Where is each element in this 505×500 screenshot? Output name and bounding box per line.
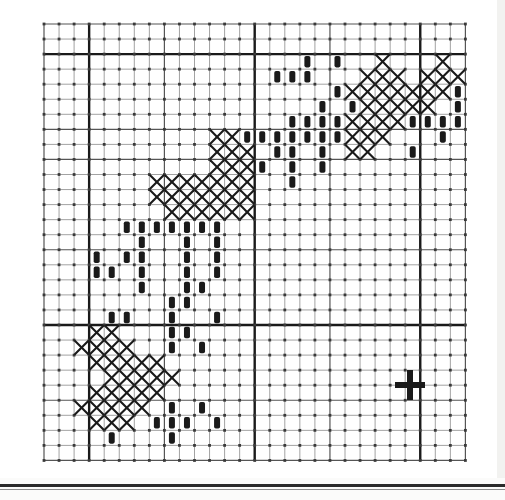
grid-intersection-dot: [58, 444, 61, 447]
grid-intersection-dot: [283, 429, 286, 432]
grid-intersection-dot: [298, 263, 301, 266]
grid-intersection-dot: [88, 143, 91, 146]
grid-intersection-dot: [73, 459, 76, 462]
grid-intersection-dot: [404, 203, 407, 206]
grid-intersection-dot: [419, 23, 422, 26]
grid-intersection-dot: [193, 263, 196, 266]
grid-intersection-dot: [148, 233, 151, 236]
grid-intersection-dot: [88, 38, 91, 41]
stitch-cell-bar: [184, 417, 190, 429]
grid-intersection-dot: [283, 173, 286, 176]
grid-intersection-dot: [268, 143, 271, 146]
grid-intersection-dot: [404, 143, 407, 146]
stitch-cell-bar: [274, 131, 280, 143]
grid-intersection-dot: [148, 459, 151, 462]
grid-intersection-dot: [374, 399, 377, 402]
grid-intersection-dot: [148, 294, 151, 297]
grid-intersection-dot: [253, 339, 256, 342]
grid-intersection-dot: [464, 248, 467, 251]
grid-intersection-dot: [163, 339, 166, 342]
grid-intersection-dot: [178, 414, 181, 417]
grid-intersection-dot: [88, 128, 91, 131]
grid-intersection-dot: [449, 23, 452, 26]
stitch-cell-bar: [169, 327, 175, 339]
grid-intersection-dot: [404, 339, 407, 342]
grid-intersection-dot: [344, 203, 347, 206]
stitch-cell-cross: [120, 341, 133, 354]
grid-intersection-dot: [359, 263, 362, 266]
grid-intersection-dot: [419, 414, 422, 417]
stitch-cell-bar: [169, 312, 175, 324]
grid-intersection-dot: [118, 68, 121, 71]
grid-intersection-dot: [58, 429, 61, 432]
grid-intersection-dot: [434, 143, 437, 146]
grid-intersection-dot: [58, 203, 61, 206]
grid-intersection-dot: [344, 294, 347, 297]
grid-intersection-dot: [178, 399, 181, 402]
stitch-cell-cross: [241, 176, 254, 189]
grid-intersection-dot: [464, 53, 467, 56]
grid-layer: [43, 23, 467, 462]
grid-intersection-dot: [58, 158, 61, 161]
grid-intersection-dot: [359, 429, 362, 432]
stitch-cell-cross: [406, 85, 419, 98]
grid-intersection-dot: [314, 203, 317, 206]
grid-intersection-dot: [193, 23, 196, 26]
grid-intersection-dot: [389, 354, 392, 357]
grid-intersection-dot: [88, 98, 91, 101]
grid-intersection-dot: [314, 188, 317, 191]
stitch-cell-bar: [109, 267, 115, 279]
stitch-cell-bar: [139, 267, 145, 279]
grid-intersection-dot: [223, 354, 226, 357]
grid-intersection-dot: [464, 278, 467, 281]
grid-intersection-dot: [434, 38, 437, 41]
grid-intersection-dot: [283, 309, 286, 312]
grid-intersection-dot: [389, 459, 392, 462]
grid-intersection-dot: [238, 248, 241, 251]
stitch-cell-cross: [421, 100, 434, 113]
grid-intersection-dot: [449, 218, 452, 221]
grid-intersection-dot: [193, 128, 196, 131]
grid-intersection-dot: [103, 309, 106, 312]
grid-intersection-dot: [73, 158, 76, 161]
grid-intersection-dot: [449, 158, 452, 161]
grid-intersection-dot: [118, 248, 121, 251]
grid-intersection-dot: [314, 354, 317, 357]
stitch-cell-cross: [376, 100, 389, 113]
grid-intersection-dot: [359, 233, 362, 236]
grid-intersection-dot: [43, 218, 46, 221]
grid-intersection-dot: [133, 68, 136, 71]
grid-intersection-dot: [118, 128, 121, 131]
grid-intersection-dot: [389, 38, 392, 41]
grid-intersection-dot: [118, 158, 121, 161]
grid-intersection-dot: [238, 354, 241, 357]
grid-intersection-dot: [374, 248, 377, 251]
grid-intersection-dot: [389, 369, 392, 372]
grid-intersection-dot: [103, 83, 106, 86]
grid-intersection-dot: [253, 324, 256, 327]
grid-intersection-dot: [238, 339, 241, 342]
grid-intersection-dot: [118, 38, 121, 41]
stitch-cell-cross: [361, 145, 374, 158]
grid-intersection-dot: [178, 68, 181, 71]
grid-intersection-dot: [103, 23, 106, 26]
grid-intersection-dot: [148, 324, 151, 327]
grid-intersection-dot: [148, 128, 151, 131]
grid-intersection-dot: [419, 459, 422, 462]
grid-intersection-dot: [178, 278, 181, 281]
grid-intersection-dot: [344, 38, 347, 41]
stitch-cell-bar: [214, 312, 220, 324]
grid-intersection-dot: [329, 53, 332, 56]
grid-intersection-dot: [73, 188, 76, 191]
grid-intersection-dot: [163, 38, 166, 41]
grid-intersection-dot: [389, 23, 392, 26]
grid-intersection-dot: [208, 429, 211, 432]
grid-intersection-dot: [419, 339, 422, 342]
grid-intersection-dot: [419, 324, 422, 327]
grid-intersection-dot: [88, 113, 91, 116]
grid-intersection-dot: [58, 263, 61, 266]
grid-intersection-dot: [449, 429, 452, 432]
grid-intersection-dot: [268, 218, 271, 221]
grid-intersection-dot: [118, 263, 121, 266]
grid-intersection-dot: [449, 414, 452, 417]
